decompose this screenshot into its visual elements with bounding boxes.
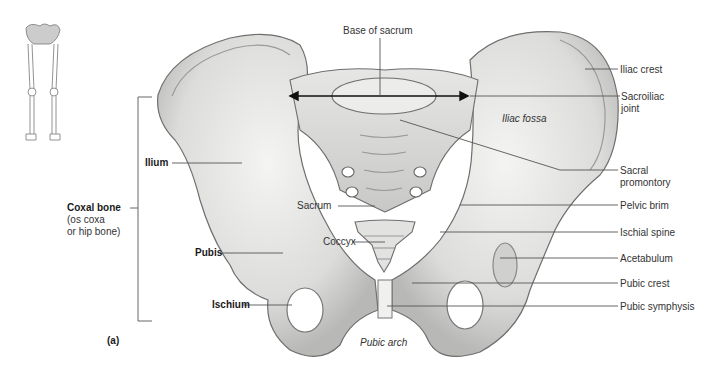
pelvis-illustration xyxy=(0,0,719,376)
label-iliac-fossa: Iliac fossa xyxy=(502,113,546,125)
label-coxal-bone-alt-1: (os coxa xyxy=(67,214,105,226)
label-pubis: Pubis xyxy=(195,247,222,259)
label-pubic-crest: Pubic crest xyxy=(620,278,669,290)
sacrum xyxy=(290,69,478,212)
label-pubic-symphysis: Pubic symphysis xyxy=(620,301,694,313)
label-base-of-sacrum: Base of sacrum xyxy=(343,25,412,37)
label-sacrum: Sacrum xyxy=(297,200,331,212)
label-acetabulum: Acetabulum xyxy=(620,253,673,265)
label-iliac-crest: Iliac crest xyxy=(620,64,662,76)
label-coccyx: Coccyx xyxy=(323,236,356,248)
label-sacroiliac-joint-1: Sacroiliac xyxy=(621,91,664,103)
label-ischial-spine: Ischial spine xyxy=(620,227,675,239)
skeleton-thumbnail-icon xyxy=(26,24,60,140)
label-pubic-arch: Pubic arch xyxy=(360,337,407,349)
label-coxal-bone: Coxal bone xyxy=(67,202,121,214)
label-sacroiliac-joint-2: joint xyxy=(621,103,639,115)
label-sacral-promontory-2: promontory xyxy=(620,177,671,189)
pubic-symphysis-disc xyxy=(378,280,392,318)
panel-label: (a) xyxy=(107,335,119,347)
label-ischium: Ischium xyxy=(212,299,250,311)
label-coxal-bone-alt-2: or hip bone) xyxy=(67,226,120,238)
label-pelvic-brim: Pelvic brim xyxy=(620,200,669,212)
label-sacral-promontory-1: Sacral xyxy=(620,165,648,177)
label-ilium: Ilium xyxy=(145,157,168,169)
coccyx xyxy=(355,220,415,272)
